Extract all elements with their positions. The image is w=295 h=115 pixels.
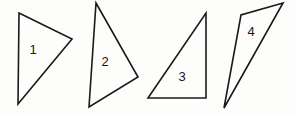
triangle-1-label: 1 bbox=[29, 42, 36, 57]
shape-group-4: 4 bbox=[224, 3, 283, 108]
shape-group-3: 3 bbox=[148, 13, 206, 98]
triangle-4-label: 4 bbox=[247, 24, 254, 39]
triangle-2-outline bbox=[89, 3, 138, 107]
triangle-3-outline bbox=[148, 13, 206, 98]
shape-group-1: 1 bbox=[18, 13, 72, 104]
triangles-figure: 1 2 3 4 bbox=[0, 0, 295, 115]
triangle-2-label: 2 bbox=[101, 54, 108, 69]
triangles-canvas: 1 2 3 4 bbox=[0, 0, 295, 115]
triangle-1-outline bbox=[18, 13, 72, 104]
shape-group-2: 2 bbox=[89, 3, 138, 107]
triangle-3-label: 3 bbox=[178, 69, 185, 84]
triangle-4-outline bbox=[224, 3, 283, 108]
